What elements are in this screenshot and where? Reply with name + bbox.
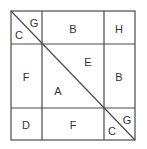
label-bottom-right-lower: C <box>108 125 116 137</box>
label-bottom-middle: F <box>70 119 77 131</box>
label-middle-center-lower: A <box>54 85 62 97</box>
label-top-left-lower: C <box>15 29 23 41</box>
label-top-middle: B <box>69 23 76 35</box>
label-bottom-left: D <box>22 119 30 131</box>
label-bottom-right-upper: G <box>123 114 132 126</box>
label-middle-center-upper: E <box>84 56 91 68</box>
label-middle-right: B <box>115 71 122 83</box>
label-top-left-upper: G <box>30 17 39 29</box>
label-top-right: H <box>115 23 123 35</box>
grid-diagram: G C B H F E A B D F G C <box>0 0 147 149</box>
label-middle-left: F <box>23 71 30 83</box>
